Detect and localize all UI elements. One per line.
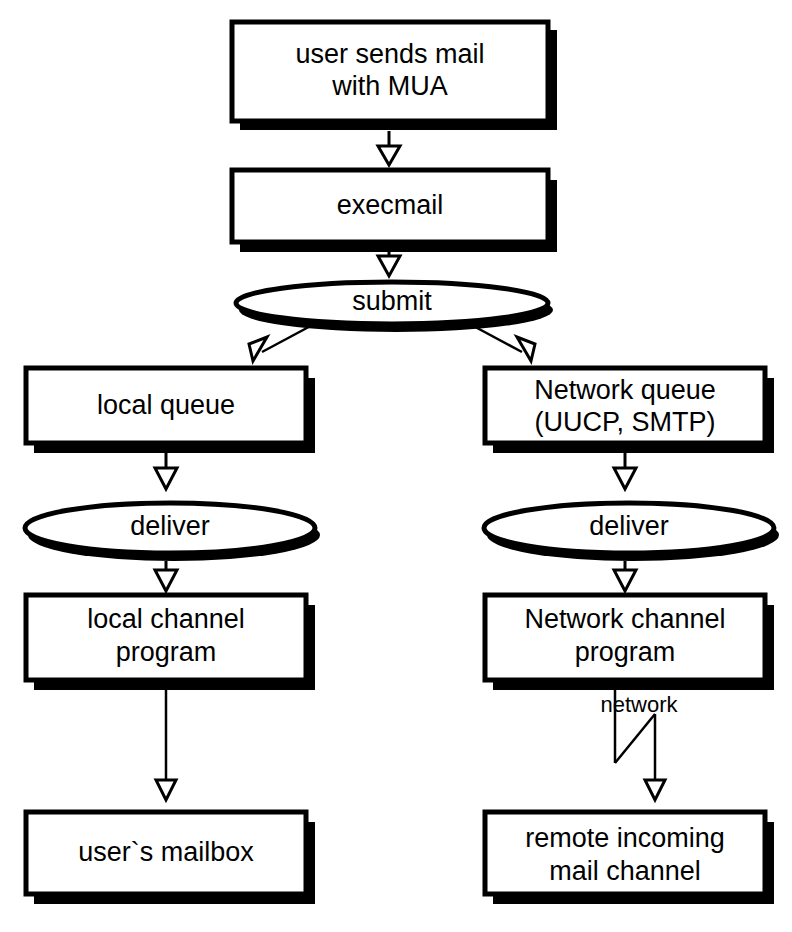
edge-submit-to-local-queue xyxy=(249,322,318,361)
arrow-head-icon xyxy=(645,780,665,800)
node-label-line1: Network channel xyxy=(524,604,725,634)
edge-usermail-to-execmail xyxy=(378,131,400,165)
arrow-head-icon xyxy=(517,337,535,361)
flowchart-canvas: user sends mail with MUA execmail submit xyxy=(0,0,792,932)
arrow-head-icon xyxy=(155,570,177,591)
node-local-queue[interactable]: local queue xyxy=(26,368,315,453)
edge-deliver-to-network-channel xyxy=(614,561,636,591)
node-users-mailbox[interactable]: user`s mailbox xyxy=(26,812,315,904)
arrow-head-icon xyxy=(378,146,400,165)
node-local-channel-program[interactable]: local channel program xyxy=(26,595,315,690)
node-remote-incoming-mail-channel[interactable]: remote incoming mail channel xyxy=(485,812,774,904)
edge-local-queue-to-deliver xyxy=(155,453,177,489)
arrow-head-icon xyxy=(614,570,636,591)
node-label-line1: deliver xyxy=(130,511,210,541)
network-annotation-label: network xyxy=(600,692,678,717)
arrow-head-icon xyxy=(378,256,400,276)
flowchart-diagram: user sends mail with MUA execmail submit xyxy=(0,0,792,932)
edge-local-channel-to-mailbox xyxy=(156,690,176,800)
node-label-line2: with MUA xyxy=(331,71,448,101)
node-deliver-left[interactable]: deliver xyxy=(25,503,320,561)
arrow-head-icon xyxy=(155,468,177,489)
node-execmail[interactable]: execmail xyxy=(232,170,557,252)
node-label-line2: mail channel xyxy=(549,856,701,886)
arrow-head-icon xyxy=(614,468,636,489)
edge-line-diagonal-segment xyxy=(615,714,655,763)
node-label-line2: program xyxy=(575,637,676,667)
node-label-line1: user sends mail xyxy=(295,39,484,69)
node-label-line2: (UUCP, SMTP) xyxy=(534,407,715,437)
node-label-line1: execmail xyxy=(337,190,444,220)
node-label-line1: deliver xyxy=(589,511,669,541)
node-label-line1: user`s mailbox xyxy=(78,837,254,867)
node-label-line1: remote incoming xyxy=(525,823,725,853)
node-label-line2: program xyxy=(116,637,217,667)
arrow-head-icon xyxy=(249,337,267,361)
edge-network-queue-to-deliver xyxy=(614,453,636,489)
node-label-line1: Network queue xyxy=(534,375,716,405)
arrow-head-icon xyxy=(156,780,176,800)
node-network-queue[interactable]: Network queue (UUCP, SMTP) xyxy=(485,368,774,453)
node-submit[interactable]: submit xyxy=(236,282,553,332)
node-user-sends-mail[interactable]: user sends mail with MUA xyxy=(232,22,557,130)
node-network-channel-program[interactable]: Network channel program xyxy=(485,595,774,690)
edge-execmail-to-submit xyxy=(378,252,400,276)
node-label-line1: submit xyxy=(352,286,432,316)
node-label-line1: local queue xyxy=(97,390,235,420)
node-deliver-right[interactable]: deliver xyxy=(484,503,779,561)
node-label-line1: local channel xyxy=(87,604,245,634)
edge-deliver-to-local-channel xyxy=(155,561,177,591)
edge-network-channel-to-remote: network xyxy=(600,690,678,800)
edge-line xyxy=(262,322,318,352)
edge-submit-to-network-queue xyxy=(466,322,535,361)
